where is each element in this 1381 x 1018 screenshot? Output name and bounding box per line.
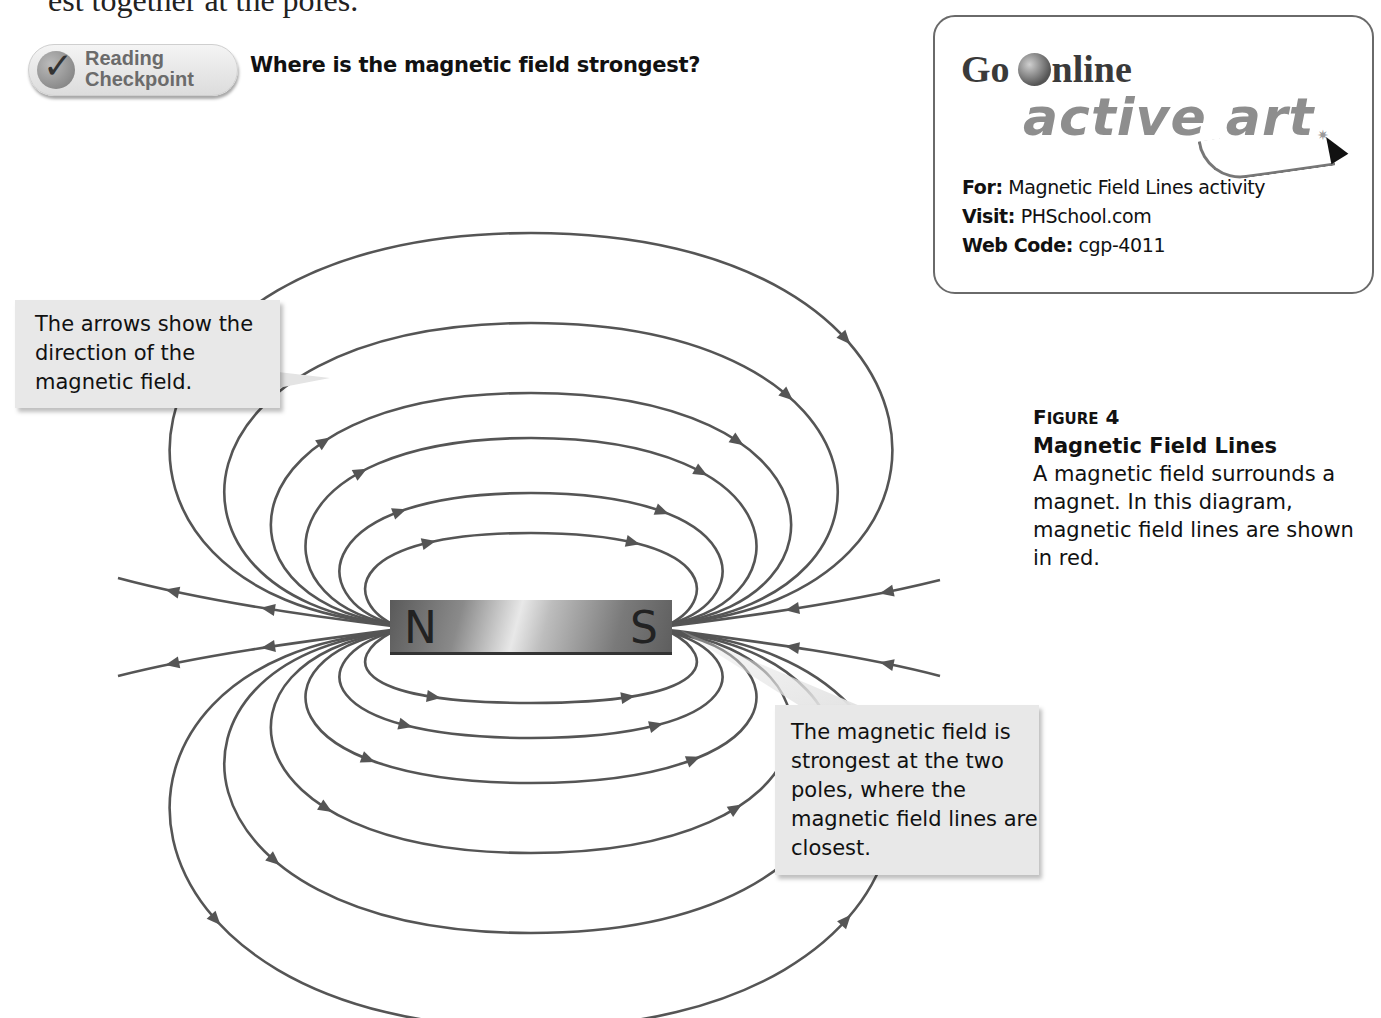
figure-caption: FIGURE 4 Magnetic Field Lines A magnetic… [1033,404,1378,572]
callout-arrows-direction: The arrows show the direction of the mag… [15,300,280,408]
south-pole-label: S [630,602,658,653]
callout-field-strongest: The magnetic field is strongest at the t… [775,705,1039,875]
bar-magnet: N S [390,600,672,655]
figure-title: Magnetic Field Lines [1033,432,1378,460]
fig-number-value: 4 [1106,405,1120,429]
figure-description: A magnetic field surrounds a magnet. In … [1033,460,1378,572]
callout-pointer-strongest [680,630,860,706]
north-pole-label: N [404,602,437,653]
fig-prefix: F [1033,405,1047,429]
fig-rest: IGURE [1047,410,1099,428]
figure-number: FIGURE 4 [1033,404,1378,432]
